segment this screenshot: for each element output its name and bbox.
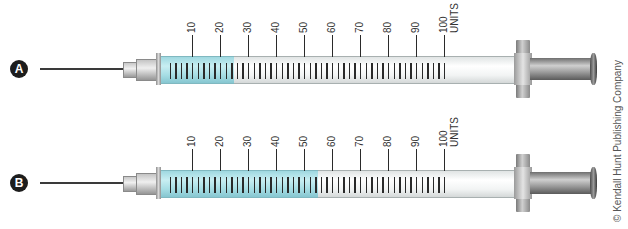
major-tick-line	[332, 149, 333, 171]
minor-tick	[438, 177, 439, 193]
minor-tick	[326, 177, 327, 193]
major-tick-line	[444, 149, 445, 171]
major-tick	[276, 177, 277, 193]
minor-tick	[382, 177, 383, 193]
minor-tick	[366, 177, 367, 193]
major-tick-line	[444, 35, 445, 57]
minor-tick	[270, 63, 271, 79]
minor-tick	[254, 177, 255, 193]
minor-tick	[343, 177, 344, 193]
minor-tick	[170, 177, 171, 193]
minor-tick	[382, 63, 383, 79]
minor-tick	[410, 177, 411, 193]
plunger-thumb-rest	[590, 167, 597, 199]
syringe-label: A	[10, 60, 28, 78]
minor-tick	[181, 177, 182, 193]
scale-number: 20	[214, 22, 225, 33]
minor-tick	[242, 177, 243, 193]
scale-number: 60	[326, 136, 337, 147]
minor-tick	[422, 63, 423, 79]
minor-tick	[214, 63, 215, 79]
minor-tick	[338, 177, 339, 193]
minor-tick	[198, 177, 199, 193]
minor-tick	[282, 63, 283, 79]
major-tick-line	[388, 149, 389, 171]
minor-tick	[422, 177, 423, 193]
major-tick-line	[416, 35, 417, 57]
major-tick-line	[220, 35, 221, 57]
minor-tick	[377, 63, 378, 79]
major-tick	[416, 63, 417, 79]
scale-number: 100	[438, 16, 449, 33]
minor-tick	[338, 63, 339, 79]
major-tick	[388, 63, 389, 79]
major-tick-line	[192, 35, 193, 57]
minor-tick	[231, 177, 232, 193]
scale-number: 10	[186, 136, 197, 147]
major-tick-line	[304, 149, 305, 171]
minor-tick	[237, 63, 238, 79]
scale-number: 60	[326, 22, 337, 33]
minor-tick	[371, 177, 372, 193]
minor-tick	[349, 63, 350, 79]
minor-tick	[265, 177, 266, 193]
major-tick	[444, 177, 445, 193]
minor-tick	[287, 63, 288, 79]
minor-tick	[310, 177, 311, 193]
scale-number: 40	[270, 22, 281, 33]
scale-number: 80	[382, 22, 393, 33]
minor-tick	[282, 177, 283, 193]
scale-number: 50	[298, 136, 309, 147]
minor-tick	[226, 63, 227, 79]
major-tick-line	[248, 149, 249, 171]
minor-tick	[242, 63, 243, 79]
major-tick	[192, 63, 193, 79]
major-tick	[248, 177, 249, 193]
scale-unit-label: UNITS	[449, 117, 460, 147]
scale-number: 10	[186, 22, 197, 33]
major-tick	[276, 63, 277, 79]
syringe-label: B	[10, 174, 28, 192]
minor-tick	[427, 177, 428, 193]
minor-tick	[209, 177, 210, 193]
major-tick-line	[388, 35, 389, 57]
minor-tick	[405, 177, 406, 193]
minor-tick	[298, 63, 299, 79]
major-tick-line	[248, 35, 249, 57]
minor-tick	[394, 177, 395, 193]
copyright-credit: © Kendall Hunt Publishing Company	[612, 60, 623, 222]
minor-tick	[198, 63, 199, 79]
minor-tick	[410, 63, 411, 79]
minor-tick	[203, 177, 204, 193]
scale-number: 50	[298, 22, 309, 33]
minor-tick	[349, 177, 350, 193]
minor-tick	[315, 63, 316, 79]
minor-tick	[394, 63, 395, 79]
plunger-rod	[530, 172, 592, 194]
minor-tick	[399, 63, 400, 79]
major-tick-line	[276, 35, 277, 57]
minor-tick	[310, 63, 311, 79]
minor-tick	[254, 63, 255, 79]
major-tick	[192, 177, 193, 193]
scale-number: 20	[214, 136, 225, 147]
needle-hub	[136, 59, 158, 81]
major-tick	[416, 177, 417, 193]
minor-tick	[226, 177, 227, 193]
scale-number: 90	[410, 22, 421, 33]
minor-tick	[377, 177, 378, 193]
major-tick	[444, 63, 445, 79]
minor-tick	[427, 63, 428, 79]
scale-number: 70	[354, 136, 365, 147]
minor-tick	[231, 63, 232, 79]
minor-tick	[209, 63, 210, 79]
major-tick-line	[416, 149, 417, 171]
plunger-rod	[530, 58, 592, 80]
needle	[40, 68, 126, 70]
major-tick	[388, 177, 389, 193]
major-tick-line	[220, 149, 221, 171]
scale-number: 70	[354, 22, 365, 33]
minor-tick	[321, 63, 322, 79]
major-tick-line	[360, 35, 361, 57]
minor-tick	[293, 177, 294, 193]
